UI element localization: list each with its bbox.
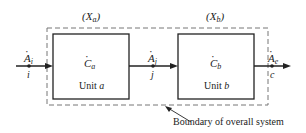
flow-symbol: A	[268, 52, 275, 64]
stream-e-flow-label: Ae	[268, 53, 278, 66]
stream-j-label: j	[151, 70, 154, 80]
stream-j-flow-label: Aj	[148, 53, 157, 66]
paren-close: )	[96, 10, 100, 22]
process-diagram	[0, 0, 306, 133]
unit-a-name: Unit a	[79, 81, 104, 91]
flow-subscript: e	[275, 57, 279, 66]
unit-letter: b	[224, 80, 229, 91]
rate-subscript: a	[91, 62, 95, 71]
stream-i-flow-label: Ai	[24, 53, 33, 66]
flow-symbol: A	[24, 52, 31, 64]
unit-b-state-label: (Xb)	[206, 11, 224, 24]
unit-word: Unit	[204, 80, 222, 91]
rate-subscript: b	[217, 62, 221, 71]
rate-symbol: C	[84, 57, 91, 69]
unit-b-name: Unit b	[204, 81, 229, 91]
flow-subscript: j	[155, 57, 157, 66]
unit-word: Unit	[79, 80, 97, 91]
unit-b-rate-label: Cb	[210, 58, 221, 71]
rate-symbol: C	[210, 57, 217, 69]
unit-letter: a	[99, 80, 104, 91]
unit-a-state-label: (Xa)	[82, 11, 100, 24]
stream-e-label: c	[270, 70, 274, 80]
paren-close: )	[220, 10, 224, 22]
stream-i-label: i	[27, 70, 30, 80]
flow-symbol: A	[148, 52, 155, 64]
unit-a-rate-label: Ca	[84, 58, 95, 71]
boundary-caption: Boundary of overall system	[173, 117, 284, 127]
flow-subscript: i	[31, 57, 33, 66]
